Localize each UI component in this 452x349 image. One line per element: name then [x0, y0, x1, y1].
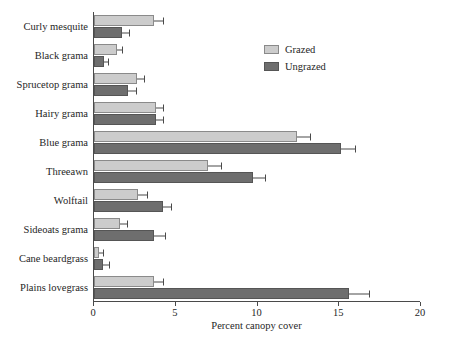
error-bar — [156, 107, 164, 108]
bar-grazed — [94, 189, 138, 200]
x-axis-tick — [338, 302, 339, 306]
x-axis-tick-label: 0 — [90, 307, 95, 319]
error-bar-cap — [109, 261, 110, 268]
bar-ungrazed — [94, 85, 128, 96]
error-bar — [122, 32, 130, 33]
error-bar-cap — [122, 46, 123, 53]
x-axis-tick — [175, 302, 176, 306]
legend-item-ungrazed: Ungrazed — [264, 59, 326, 73]
error-bar — [137, 78, 145, 79]
y-axis-label: Sideoats grama — [0, 224, 88, 236]
bar-ungrazed — [94, 288, 349, 299]
error-bar — [103, 264, 110, 265]
plot-area — [93, 12, 420, 302]
error-bar — [128, 90, 136, 91]
error-bar — [208, 165, 221, 166]
x-axis-tick-label: 15 — [333, 307, 344, 319]
error-bar-cap — [144, 75, 145, 82]
error-bar — [138, 194, 148, 195]
error-bar — [154, 20, 164, 21]
error-bar — [163, 206, 173, 207]
legend-swatch — [264, 62, 279, 71]
bar-ungrazed — [94, 56, 104, 67]
y-axis-category-labels: Curly mesquiteBlack gramaSprucetop grama… — [0, 12, 88, 302]
x-axis-tick-label: 5 — [172, 307, 177, 319]
y-axis-label: Hairy grama — [0, 108, 88, 120]
error-bar-cap — [163, 17, 164, 24]
error-bar-cap — [163, 116, 164, 123]
error-bar — [120, 223, 128, 224]
error-bar-cap — [355, 145, 356, 152]
bar-ungrazed — [94, 230, 154, 241]
x-axis-tick-label: 10 — [251, 307, 262, 319]
error-bar — [154, 281, 164, 282]
y-axis-label: Threeawn — [0, 166, 88, 178]
error-bar-cap — [127, 220, 128, 227]
error-bar-cap — [171, 203, 172, 210]
bar-grazed — [94, 44, 117, 55]
bar-grazed — [94, 276, 154, 287]
x-axis-tick — [420, 302, 421, 306]
error-bar — [253, 177, 266, 178]
legend-swatch — [264, 45, 279, 54]
y-axis-label: Blue grama — [0, 137, 88, 149]
error-bar-cap — [103, 249, 104, 256]
bar-ungrazed — [94, 27, 122, 38]
error-bar-cap — [165, 232, 166, 239]
bar-grazed — [94, 102, 156, 113]
error-bar — [156, 119, 164, 120]
x-axis-tick — [93, 302, 94, 306]
error-bar-cap — [163, 104, 164, 111]
bar-grazed — [94, 131, 297, 142]
error-bar — [99, 252, 104, 253]
bar-ungrazed — [94, 114, 156, 125]
y-axis-label: Curly mesquite — [0, 21, 88, 33]
legend-label: Ungrazed — [285, 61, 326, 72]
bar-ungrazed — [94, 143, 341, 154]
error-bar — [154, 235, 165, 236]
legend-label: Grazed — [285, 44, 315, 55]
y-axis-label: Sprucetop grama — [0, 79, 88, 91]
bar-ungrazed — [94, 259, 103, 270]
y-axis-label: Plains lovegrass — [0, 282, 88, 294]
error-bar-cap — [129, 29, 130, 36]
error-bar-cap — [108, 58, 109, 65]
x-axis: 05101520 — [93, 302, 421, 322]
legend-item-grazed: Grazed — [264, 42, 326, 56]
y-axis-label: Wolftail — [0, 195, 88, 207]
error-bar — [297, 136, 312, 137]
bar-ungrazed — [94, 201, 163, 212]
error-bar — [349, 293, 370, 294]
x-axis-tick — [257, 302, 258, 306]
x-axis-title: Percent canopy cover — [93, 320, 420, 331]
error-bar-cap — [369, 290, 370, 297]
error-bar-cap — [265, 174, 266, 181]
error-bar-cap — [163, 278, 164, 285]
error-bar-cap — [147, 191, 148, 198]
error-bar-cap — [310, 133, 311, 140]
bar-grazed — [94, 15, 154, 26]
y-axis-label: Cane beardgrass — [0, 253, 88, 265]
y-axis-label: Black grama — [0, 50, 88, 62]
error-bar-cap — [136, 87, 137, 94]
error-bar — [117, 49, 124, 50]
bar-grazed — [94, 160, 208, 171]
chart-figure: Curly mesquiteBlack gramaSprucetop grama… — [0, 0, 452, 349]
bar-ungrazed — [94, 172, 253, 183]
bar-grazed — [94, 218, 120, 229]
error-bar-cap — [221, 162, 222, 169]
error-bar — [104, 61, 109, 62]
bar-grazed — [94, 73, 137, 84]
chart-legend: GrazedUngrazed — [264, 42, 326, 76]
x-axis-tick-label: 20 — [415, 307, 426, 319]
error-bar — [341, 148, 356, 149]
